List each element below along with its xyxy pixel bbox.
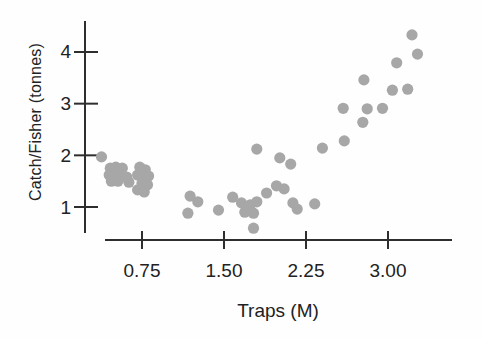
data-point	[139, 186, 150, 197]
data-point	[377, 103, 388, 114]
data-point	[274, 152, 285, 163]
data-point	[358, 74, 369, 85]
data-point	[123, 177, 134, 188]
data-point	[309, 198, 320, 209]
scatter-plot-canvas: 12340.751.502.253.00	[0, 0, 482, 339]
y-tick-label: 2	[60, 145, 71, 166]
data-point	[251, 196, 262, 207]
data-point	[248, 208, 259, 219]
data-point	[96, 151, 107, 162]
data-point	[182, 208, 193, 219]
data-point	[402, 84, 413, 95]
data-point	[192, 196, 203, 207]
data-point	[292, 204, 303, 215]
data-point	[362, 103, 373, 114]
data-point	[387, 85, 398, 96]
data-point	[213, 205, 224, 216]
data-point	[406, 29, 417, 40]
data-point	[357, 117, 368, 128]
data-point	[248, 223, 259, 234]
data-point	[339, 135, 350, 146]
data-point	[338, 103, 349, 114]
y-tick-label: 1	[60, 197, 71, 218]
data-point	[261, 187, 272, 198]
data-point	[285, 159, 296, 170]
data-point	[279, 183, 290, 194]
data-point	[317, 143, 328, 154]
x-tick-label: 2.25	[288, 260, 325, 281]
x-axis-title: Traps (M)	[237, 300, 319, 322]
y-tick-label: 3	[60, 93, 71, 114]
scatter-plot-figure: 12340.751.502.253.00 Catch/Fisher (tonne…	[0, 0, 482, 339]
y-tick-label: 4	[60, 41, 71, 62]
data-point	[412, 49, 423, 60]
data-point	[112, 176, 123, 187]
x-tick-label: 0.75	[124, 260, 161, 281]
x-tick-label: 1.50	[206, 260, 243, 281]
y-axis-title: Catch/Fisher (tonnes)	[27, 43, 45, 201]
data-point	[391, 57, 402, 68]
x-tick-label: 3.00	[370, 260, 407, 281]
data-point	[251, 144, 262, 155]
